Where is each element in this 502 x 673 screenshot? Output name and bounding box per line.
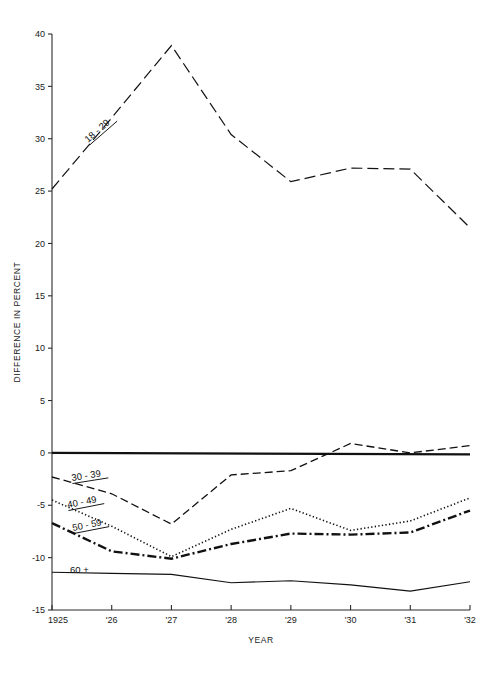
y-tick-label: -15 — [32, 605, 45, 615]
series-label-group: 30 - 39 — [71, 466, 109, 483]
zero-line — [52, 453, 470, 455]
series-label: 40 - 49 — [66, 494, 97, 510]
chart-figure: 4035302520151050-5-10-151925'26'27'28'29… — [0, 0, 502, 673]
y-tick-label: -10 — [32, 553, 45, 563]
series-label: 30 - 39 — [71, 467, 102, 482]
line-chart: 4035302520151050-5-10-151925'26'27'28'29… — [0, 0, 502, 673]
x-tick-label: '27 — [166, 615, 178, 625]
y-tick-label: 5 — [40, 396, 45, 406]
x-tick-label: '30 — [345, 615, 357, 625]
series-label-group: 18 - 29 — [82, 112, 117, 145]
y-tick-label: 10 — [35, 343, 45, 353]
series-lines — [52, 46, 470, 592]
series-label: 18 - 29 — [82, 117, 112, 145]
axes — [48, 34, 470, 610]
series-label: 50 - 59 — [71, 517, 102, 533]
y-tick-label: 20 — [35, 239, 45, 249]
series-label: 60 + — [70, 564, 89, 575]
series-line-50-59 — [52, 511, 470, 559]
series-line-18-29 — [52, 46, 470, 228]
y-tick-label: 15 — [35, 291, 45, 301]
x-tick-label: 1925 — [48, 615, 68, 625]
y-axis-title-group: DIFFERENCE IN PERCENT — [12, 262, 22, 383]
series-label-group: 40 - 49 — [66, 492, 104, 510]
y-tick-label: 0 — [40, 448, 45, 458]
x-tick-label: '31 — [404, 615, 416, 625]
series-label-group: 60 + — [70, 564, 89, 575]
series-line-30-39 — [52, 443, 470, 524]
y-tick-label: 30 — [35, 134, 45, 144]
series-label-group: 50 - 59 — [71, 515, 109, 533]
y-tick-label: 40 — [35, 29, 45, 39]
y-tick-label: 25 — [35, 186, 45, 196]
x-tick-label: '28 — [225, 615, 237, 625]
x-tick-label: '32 — [464, 615, 476, 625]
series-line-40-49 — [52, 498, 470, 557]
series-line-60plus — [52, 572, 470, 591]
y-tick-label: 35 — [35, 82, 45, 92]
y-tick-label: -5 — [37, 500, 45, 510]
x-tick-label: '26 — [106, 615, 118, 625]
zero-reference-line — [52, 453, 470, 455]
y-axis-title: DIFFERENCE IN PERCENT — [12, 262, 22, 383]
series-annotations: 18 - 2930 - 3940 - 4950 - 5960 + — [66, 112, 117, 575]
tick-labels: 4035302520151050-5-10-151925'26'27'28'29… — [32, 29, 476, 625]
x-axis-title: YEAR — [248, 635, 274, 645]
x-tick-label: '29 — [285, 615, 297, 625]
